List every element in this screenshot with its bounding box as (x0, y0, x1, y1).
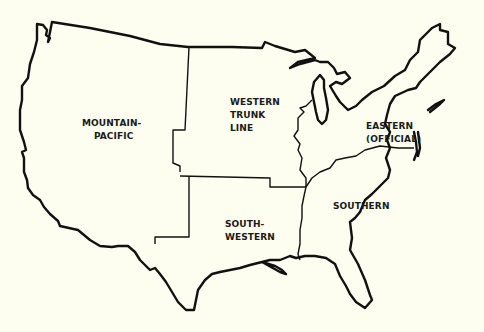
boundary-sw-southern (298, 187, 306, 260)
label-line: SOUTHERN (333, 200, 390, 213)
label-line: TRUNK (230, 109, 280, 122)
us-outline (20, 22, 455, 310)
region-label-south-western: SOUTH- WESTERN (225, 218, 275, 244)
long-island (428, 100, 444, 112)
boundary-mp-sw (155, 176, 189, 244)
lake-michigan (312, 75, 328, 124)
label-line: PACIFIC (82, 130, 141, 143)
boundary-wtl-eastern (294, 100, 312, 187)
label-line: WESTERN (225, 231, 275, 244)
region-label-western-trunk-line: WESTERN TRUNK LINE (230, 96, 280, 135)
boundary-mp-wtl (173, 47, 189, 172)
boundary-wtl-sw (180, 176, 306, 187)
map-outline (0, 0, 484, 332)
label-line: SOUTH- (225, 218, 275, 231)
boundary-eastern-southern (306, 146, 414, 187)
region-label-mountain-pacific: MOUNTAIN- PACIFIC (82, 117, 141, 143)
region-label-eastern-official: EASTERN (OFFICIAL) (366, 120, 421, 146)
label-line: WESTERN (230, 96, 280, 109)
label-line: EASTERN (366, 120, 421, 133)
region-label-southern: SOUTHERN (333, 200, 390, 213)
label-line: LINE (230, 122, 280, 135)
label-line: MOUNTAIN- (82, 117, 141, 130)
us-freight-territory-map: MOUNTAIN- PACIFIC WESTERN TRUNK LINE EAS… (0, 0, 484, 332)
label-line: (OFFICIAL) (366, 133, 421, 146)
